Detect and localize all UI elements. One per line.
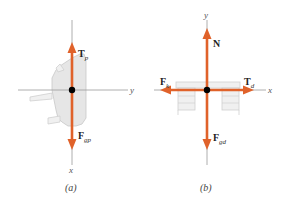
axis-label-y-b: y <box>203 10 208 20</box>
arrowhead-n <box>203 28 212 39</box>
axis-label-x-b: x <box>267 85 272 95</box>
caption-b: (b) <box>200 182 212 194</box>
arrowhead-tp <box>68 42 77 53</box>
label-n: N <box>213 38 221 49</box>
arrowhead-fgd <box>203 139 212 150</box>
axis-label-x-a: x <box>68 165 73 175</box>
center-point-a <box>69 87 75 93</box>
panel-a: y x Tp Fgp (a) <box>18 20 134 194</box>
caption-a: (a) <box>65 182 77 194</box>
center-point-b <box>204 87 210 93</box>
panel-b: x y N Fgd Fk Td (b) <box>154 10 272 194</box>
label-fk: Fk <box>160 76 170 90</box>
axis-label-y-a: y <box>129 85 134 95</box>
arrowhead-fgp <box>68 139 77 150</box>
label-fgd: Fgd <box>213 132 227 146</box>
label-fgp: Fgp <box>78 130 92 144</box>
free-body-diagrams: y x Tp Fgp (a) x y <box>0 0 288 200</box>
